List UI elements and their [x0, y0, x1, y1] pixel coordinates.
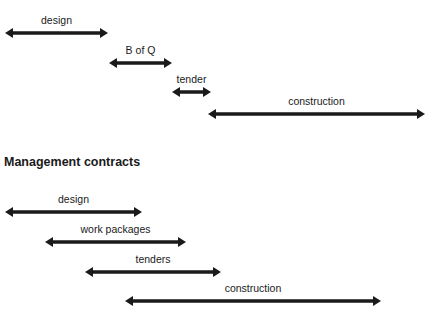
management-arrow-construction — [125, 296, 381, 306]
arrowhead-left-icon — [85, 267, 93, 277]
arrowhead-right-icon — [373, 296, 381, 306]
arrowhead-right-icon — [213, 267, 221, 277]
arrowhead-left-icon — [208, 109, 216, 119]
management-label: tenders — [135, 253, 170, 265]
arrowhead-left-icon — [45, 237, 53, 247]
management-label: construction — [225, 282, 282, 294]
arrowhead-right-icon — [100, 28, 108, 38]
management-label: design — [58, 193, 89, 205]
arrowhead-left-icon — [5, 28, 13, 38]
arrowhead-right-icon — [164, 58, 172, 68]
arrowhead-right-icon — [417, 109, 425, 119]
arrowhead-left-icon — [125, 296, 133, 306]
management-arrow-work-packages — [45, 237, 186, 247]
traditional-label: construction — [288, 95, 345, 107]
traditional-arrow-b-of-q — [109, 58, 172, 68]
arrowhead-right-icon — [178, 237, 186, 247]
management-label: work packages — [80, 223, 150, 235]
arrowhead-left-icon — [109, 58, 117, 68]
management-arrow-tenders — [85, 267, 221, 277]
traditional-label: B of Q — [126, 44, 156, 56]
management-contracts-heading: Management contracts — [4, 155, 140, 169]
arrowhead-right-icon — [203, 87, 211, 97]
traditional-arrow-tender — [172, 87, 211, 97]
arrowhead-left-icon — [172, 87, 180, 97]
arrowhead-right-icon — [134, 207, 142, 217]
traditional-arrow-construction — [208, 109, 425, 119]
traditional-label: design — [41, 14, 72, 26]
traditional-label: tender — [177, 73, 207, 85]
arrowhead-left-icon — [5, 207, 13, 217]
management-arrow-design — [5, 207, 142, 217]
traditional-arrow-design — [5, 28, 108, 38]
